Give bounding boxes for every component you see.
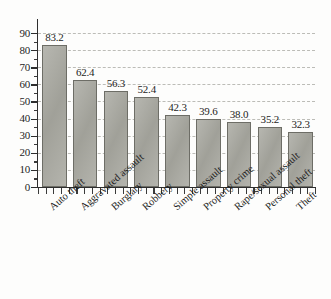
bars-layer: 83.262.456.352.442.339.638.035.232.3 [38, 19, 315, 187]
y-tick-label-20: 20 [0, 147, 30, 158]
y-tick-label-80: 80 [0, 45, 30, 56]
y-tick-label-40: 40 [0, 113, 30, 124]
y-tick-label-30: 30 [0, 130, 30, 141]
bar-chart: 0102030405060708090 83.262.456.352.442.3… [0, 0, 331, 299]
bar-value-label: 62.4 [67, 67, 104, 78]
bar[interactable] [42, 45, 67, 187]
bar-value-label: 83.2 [36, 32, 73, 43]
bar[interactable] [165, 115, 190, 187]
y-tick-label-70: 70 [0, 62, 30, 73]
y-tick-label-60: 60 [0, 79, 30, 90]
category-labels-layer: Auto theftAggravated assaultBurglaryRobb… [0, 187, 331, 299]
bar-value-label: 32.3 [282, 119, 319, 130]
y-tick-label-10: 10 [0, 164, 30, 175]
x-tick-label: Theft [294, 189, 318, 212]
y-tick-label-90: 90 [0, 28, 30, 39]
bar[interactable] [73, 80, 98, 187]
y-tick-label-50: 50 [0, 96, 30, 107]
bar[interactable] [134, 97, 159, 187]
bar-value-label: 52.4 [128, 84, 165, 95]
